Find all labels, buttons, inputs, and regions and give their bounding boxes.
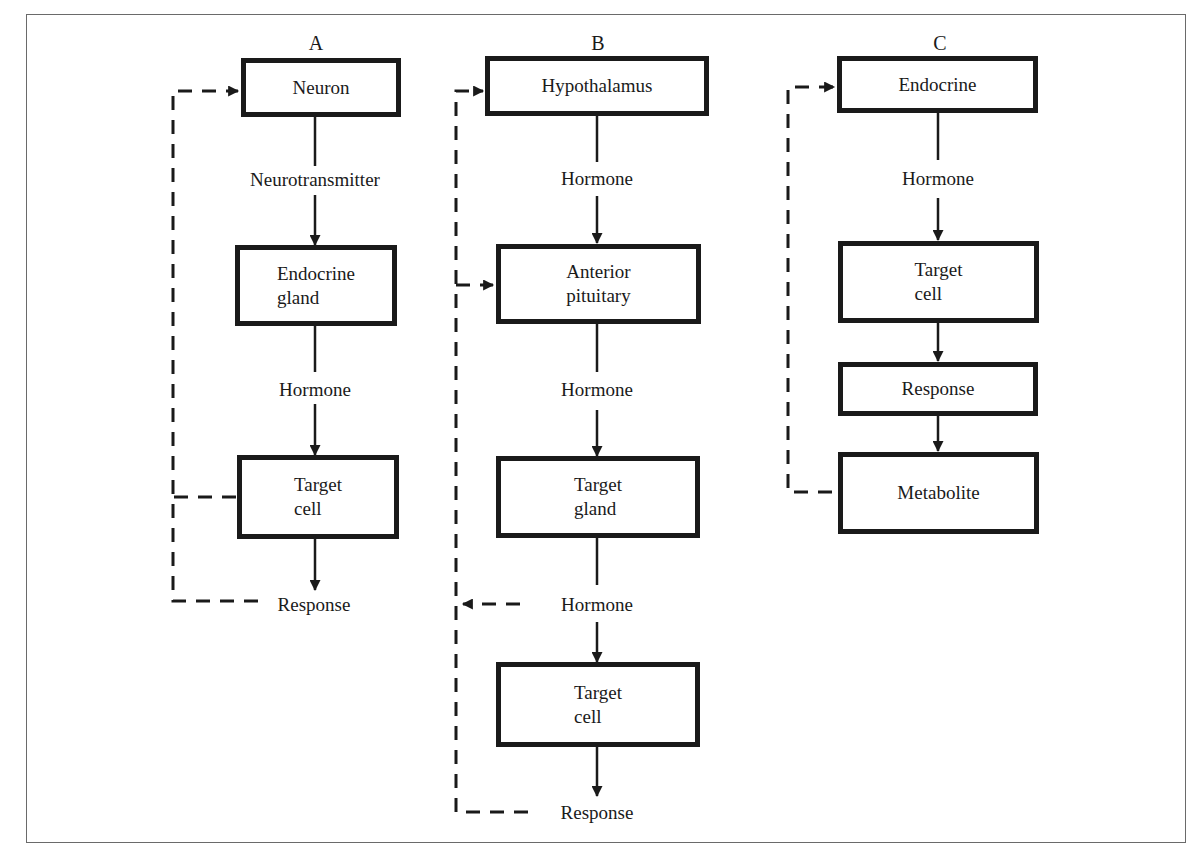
label-hormone-a: Hormone	[277, 379, 353, 401]
node-target-gland: Target gland	[496, 456, 700, 538]
label-response-b: Response	[559, 802, 636, 824]
node-hypothalamus: Hypothalamus	[485, 56, 709, 116]
node-neuron-label: Neuron	[293, 76, 350, 100]
node-target-cell-a-label: Target cell	[294, 473, 342, 521]
node-response-c-label: Response	[902, 377, 975, 401]
node-target-cell-b: Target cell	[496, 662, 700, 747]
column-b-title: B	[591, 32, 604, 55]
node-endocrine-label: Endocrine	[898, 73, 976, 97]
node-metabolite-label: Metabolite	[897, 481, 979, 505]
node-target-gland-label: Target gland	[574, 473, 622, 521]
label-response-a: Response	[276, 594, 353, 616]
node-hypothalamus-label: Hypothalamus	[542, 74, 653, 98]
node-response-c: Response	[838, 362, 1038, 416]
label-hormone-b1: Hormone	[559, 168, 635, 190]
node-endocrine: Endocrine	[837, 56, 1038, 113]
node-endocrine-gland-label: Endocrine gland	[277, 262, 355, 310]
label-hormone-c: Hormone	[900, 168, 976, 190]
node-anterior-pituitary-label: Anterior pituitary	[566, 260, 630, 308]
column-c-feedback	[788, 87, 834, 492]
label-neurotransmitter: Neurotransmitter	[248, 169, 382, 191]
node-target-cell-c-label: Target cell	[915, 258, 963, 306]
node-target-cell-b-label: Target cell	[574, 681, 622, 729]
label-hormone-b2: Hormone	[559, 379, 635, 401]
node-target-cell-c: Target cell	[838, 241, 1039, 323]
node-neuron: Neuron	[241, 58, 401, 117]
node-anterior-pituitary: Anterior pituitary	[496, 244, 701, 324]
node-metabolite: Metabolite	[838, 452, 1039, 534]
feedback-metabolite-to-endocrine	[788, 87, 834, 492]
node-endocrine-gland: Endocrine gland	[235, 245, 397, 326]
node-target-cell-a: Target cell	[237, 455, 399, 539]
column-a-title: A	[309, 32, 323, 55]
column-c-title: C	[933, 32, 946, 55]
label-hormone-b3: Hormone	[559, 594, 635, 616]
